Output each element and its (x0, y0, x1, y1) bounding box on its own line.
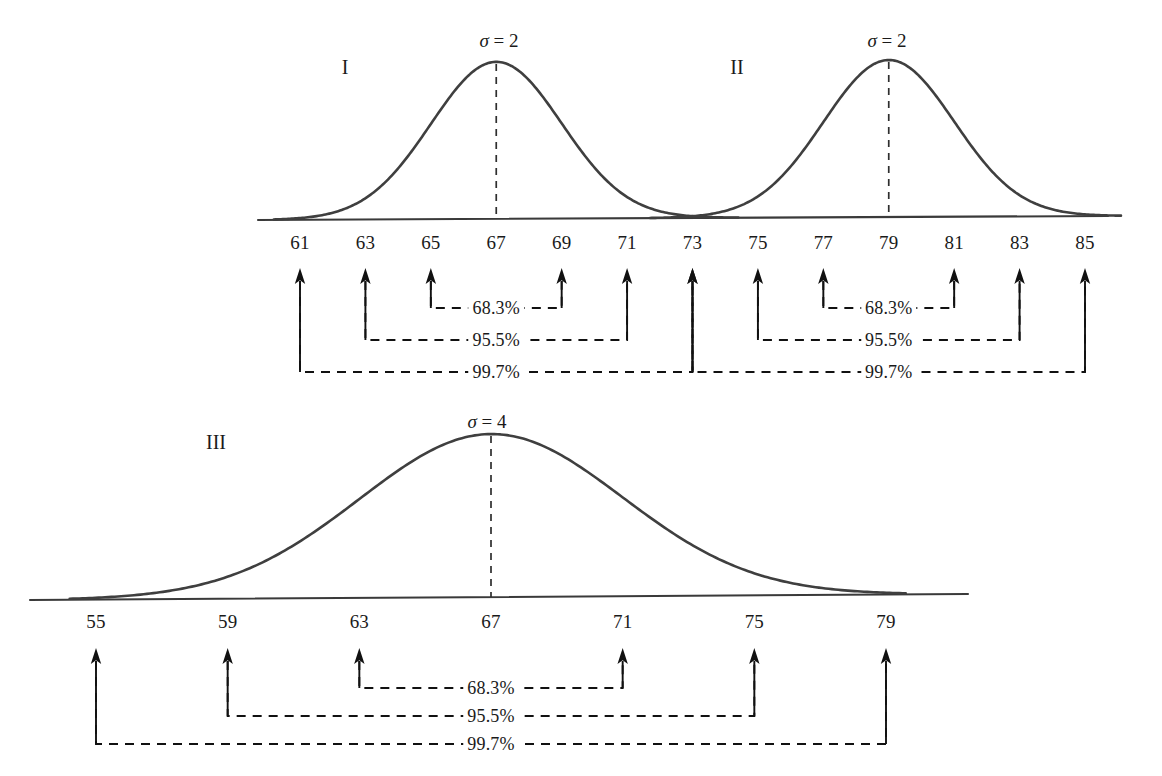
tick-label-75: 75 (748, 233, 767, 252)
tick-label-iii-79: 79 (876, 612, 895, 631)
sigma-label-panel-III: σ = 4 (467, 412, 506, 431)
tick-label-83: 83 (1010, 233, 1029, 252)
curve-panel-II (650, 60, 1121, 218)
bracket-panel-II-997 (693, 281, 1086, 372)
bracket-panel-II-997-label: 99.7% (861, 363, 917, 381)
bracket-panel-II-955-label: 95.5% (861, 331, 917, 349)
tick-label-85: 85 (1075, 233, 1094, 252)
tick-label-iii-71: 71 (613, 612, 632, 631)
tick-label-63: 63 (356, 233, 375, 252)
curve-panel-I (274, 62, 738, 220)
bracket-panel-III-997-label: 99.7% (463, 735, 519, 753)
bracket-panel-I-683-label: 68.3% (469, 299, 525, 317)
tick-label-71: 71 (617, 233, 636, 252)
curve-panel-III (70, 434, 906, 599)
tick-label-iii-55: 55 (86, 612, 105, 631)
tick-label-67: 67 (487, 233, 506, 252)
bracket-panel-III-997 (96, 661, 886, 744)
figure-canvas: 6163656769717375777981838555596367717579… (0, 0, 1162, 776)
tick-label-iii-75: 75 (745, 612, 764, 631)
bracket-panel-I-997 (300, 281, 693, 372)
sigma-label-panel-I: σ = 2 (479, 31, 518, 50)
tick-label-iii-63: 63 (350, 612, 369, 631)
tick-label-79: 79 (879, 233, 898, 252)
tick-label-77: 77 (814, 233, 833, 252)
diagram-geometry (0, 0, 1162, 776)
bracket-panel-III-683-label: 68.3% (463, 679, 519, 697)
roman-numeral-panel-II: II (730, 57, 743, 77)
bracket-panel-III-955-label: 95.5% (463, 707, 519, 725)
tick-label-iii-59: 59 (218, 612, 237, 631)
bracket-panel-II-683-label: 68.3% (861, 299, 917, 317)
bracket-panel-I-955-label: 95.5% (469, 331, 525, 349)
tick-label-73: 73 (683, 233, 702, 252)
bracket-panel-I-997-label: 99.7% (469, 363, 525, 381)
tick-label-81: 81 (944, 233, 963, 252)
tick-label-65: 65 (421, 233, 440, 252)
sigma-label-panel-II: σ = 2 (867, 31, 906, 50)
tick-label-61: 61 (290, 233, 309, 252)
bottom-axis (30, 594, 968, 600)
roman-numeral-panel-I: I (342, 57, 349, 77)
tick-label-69: 69 (552, 233, 571, 252)
tick-label-iii-67: 67 (481, 612, 500, 631)
roman-numeral-panel-III: III (206, 432, 226, 452)
